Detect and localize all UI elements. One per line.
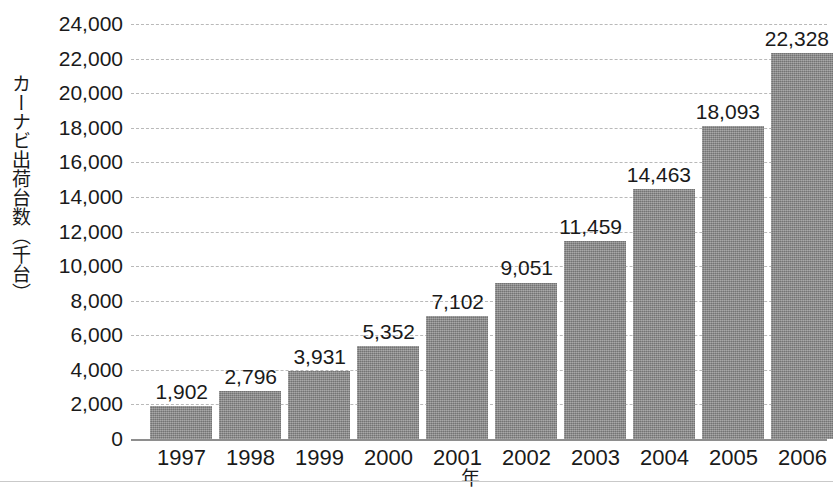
x-tick-label: 2005 [699,446,768,470]
bar-value-label: 9,051 [477,257,553,278]
y-tick-label: 22,000 [15,48,123,69]
bottom-rule [0,481,833,482]
x-tick-label: 2006 [768,446,833,470]
y-axis-tick-labels: 02,0004,0006,0008,00010,00012,00014,0001… [13,24,123,439]
bar [702,126,764,439]
bar-value-label: 11,459 [546,216,622,237]
x-tick-label: 2002 [492,446,561,470]
bar [495,283,557,440]
x-axis-title: 年 [440,468,500,488]
y-tick-label: 14,000 [15,186,123,207]
bar-value-label: 3,931 [270,346,346,367]
y-tick-label: 12,000 [15,221,123,242]
x-tick-label: 1998 [216,446,285,470]
x-tick-label: 2004 [630,446,699,470]
bar-value-label: 22,328 [753,28,829,49]
x-tick-label: 1997 [147,446,216,470]
y-tick-label: 8,000 [15,290,123,311]
axis-baseline [131,439,827,441]
y-tick-label: 24,000 [15,13,123,34]
bar [633,189,695,439]
y-tick-label: 16,000 [15,151,123,172]
bar-value-label: 5,352 [339,321,415,342]
bar [357,346,419,439]
gridline [131,59,827,60]
x-tick-label: 2003 [561,446,630,470]
bar [564,241,626,439]
bar [288,371,350,439]
x-tick-label: 2001 [423,446,492,470]
gridline [131,24,827,25]
y-tick-label: 4,000 [15,359,123,380]
bar-value-label: 1,902 [132,381,208,402]
bar-chart: カーナビ出荷台数（千台） 02,0004,0006,0008,00010,000… [0,0,833,491]
x-tick-label: 2000 [354,446,423,470]
bar-value-label: 14,463 [615,164,691,185]
y-tick-label: 6,000 [15,324,123,345]
bar [150,406,212,439]
y-tick-label: 20,000 [15,82,123,103]
y-tick-label: 10,000 [15,255,123,276]
bar [426,316,488,439]
y-tick-label: 0 [15,428,123,449]
bar-value-label: 2,796 [201,366,277,387]
bar-value-label: 18,093 [684,101,760,122]
plot-area: 1,9022,7963,9315,3527,1029,05111,45914,4… [131,24,827,439]
gridline [131,93,827,94]
bar [771,53,833,439]
bar [219,391,281,439]
x-tick-label: 1999 [285,446,354,470]
y-tick-label: 18,000 [15,117,123,138]
y-tick-label: 2,000 [15,393,123,414]
bar-value-label: 7,102 [408,291,484,312]
